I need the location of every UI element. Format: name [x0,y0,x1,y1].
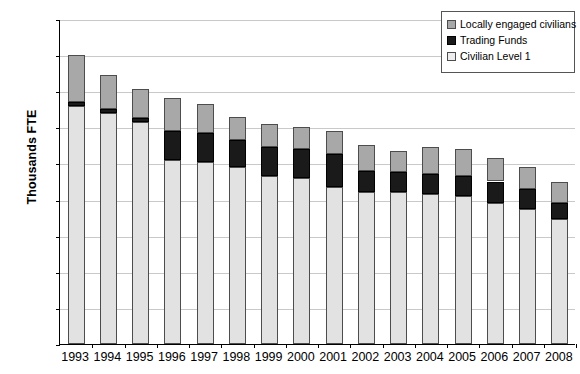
bar-segment[interactable] [358,171,375,193]
bar-segment[interactable] [68,55,85,102]
x-tick-mark [92,344,93,348]
x-tick-mark [544,344,545,348]
bar-group[interactable] [326,19,343,344]
x-tick-label: 2001 [315,350,351,364]
bar-segment[interactable] [293,127,310,149]
bar-group[interactable] [293,19,310,344]
bar-segment[interactable] [261,176,278,344]
x-tick-mark [350,344,351,348]
x-tick-mark [125,344,126,348]
x-tick-mark [512,344,513,348]
bar-segment[interactable] [293,178,310,344]
x-tick-label: 2003 [380,350,416,364]
bar-segment[interactable] [422,147,439,174]
x-tick-label: 1993 [57,350,93,364]
bar-segment[interactable] [390,192,407,344]
bar-segment[interactable] [487,158,504,181]
bar-group[interactable] [68,19,85,344]
bar-group[interactable] [261,19,278,344]
bar-segment[interactable] [293,149,310,178]
x-tick-label: 2005 [444,350,480,364]
bar-group[interactable] [100,19,117,344]
bar-segment[interactable] [358,192,375,344]
x-tick-label: 2008 [541,350,577,364]
bar-segment[interactable] [197,104,214,133]
stacked-bar-chart: Thousands FTE 020406080100120140160180 1… [0,0,580,374]
legend-item-label: Locally engaged civilians [460,19,576,30]
x-tick-mark [286,344,287,348]
x-tick-label: 1994 [89,350,125,364]
x-tick-label: 2000 [283,350,319,364]
x-tick-label: 2007 [509,350,545,364]
bar-segment[interactable] [100,75,117,109]
x-tick-label: 2006 [476,350,512,364]
x-tick-mark [383,344,384,348]
bar-segment[interactable] [326,131,343,154]
bar-group[interactable] [164,19,181,344]
bar-segment[interactable] [326,154,343,187]
bar-segment[interactable] [164,131,181,160]
bar-group[interactable] [422,19,439,344]
bar-segment[interactable] [390,172,407,192]
bar-segment[interactable] [100,109,117,113]
bar-segment[interactable] [551,182,568,204]
bar-segment[interactable] [487,182,504,204]
x-tick-mark [221,344,222,348]
x-tick-label: 2004 [412,350,448,364]
legend-item-civilian-level-1: Civilian Level 1 [447,51,569,62]
bar-segment[interactable] [519,167,536,189]
bar-segment[interactable] [229,167,246,344]
bar-segment[interactable] [132,89,149,118]
x-tick-label: 1998 [218,350,254,364]
y-axis-title: Thousands FTE [25,77,39,237]
bar-segment[interactable] [326,187,343,344]
x-tick-label: 2002 [347,350,383,364]
bar-segment[interactable] [519,209,536,344]
bar-segment[interactable] [132,118,149,122]
bar-group[interactable] [390,19,407,344]
legend-item-label: Civilian Level 1 [460,51,531,62]
bar-group[interactable] [229,19,246,344]
bar-segment[interactable] [519,189,536,209]
x-tick-mark [254,344,255,348]
x-tick-mark [318,344,319,348]
bar-segment[interactable] [197,133,214,162]
bar-segment[interactable] [229,117,246,140]
bar-segment[interactable] [261,124,278,147]
x-tick-label: 1995 [122,350,158,364]
bar-segment[interactable] [261,147,278,176]
x-tick-mark [157,344,158,348]
bar-segment[interactable] [422,194,439,344]
bar-segment[interactable] [68,102,85,106]
bar-segment[interactable] [164,160,181,344]
bar-segment[interactable] [487,203,504,344]
legend-swatch-icon [447,20,456,29]
bar-segment[interactable] [551,219,568,344]
x-tick-mark [576,344,577,348]
x-tick-mark [447,344,448,348]
bar-segment[interactable] [229,140,246,167]
bar-segment[interactable] [164,98,181,131]
bar-segment[interactable] [132,122,149,344]
bar-group[interactable] [132,19,149,344]
bar-segment[interactable] [455,196,472,344]
bar-segment[interactable] [551,203,568,219]
bar-segment[interactable] [68,106,85,344]
legend-swatch-icon [447,52,456,61]
bar-group[interactable] [197,19,214,344]
legend-item-label: Trading Funds [460,35,527,46]
bar-segment[interactable] [455,149,472,176]
legend-swatch-icon [447,36,456,45]
x-tick-label: 1997 [186,350,222,364]
x-tick-label: 1999 [251,350,287,364]
legend-item-trading-funds: Trading Funds [447,35,569,46]
bar-segment[interactable] [455,176,472,196]
bar-segment[interactable] [358,145,375,170]
x-tick-mark [189,344,190,348]
bar-segment[interactable] [422,174,439,194]
bar-segment[interactable] [197,162,214,344]
bar-segment[interactable] [100,113,117,344]
x-tick-mark [415,344,416,348]
bar-segment[interactable] [390,151,407,173]
bar-group[interactable] [358,19,375,344]
